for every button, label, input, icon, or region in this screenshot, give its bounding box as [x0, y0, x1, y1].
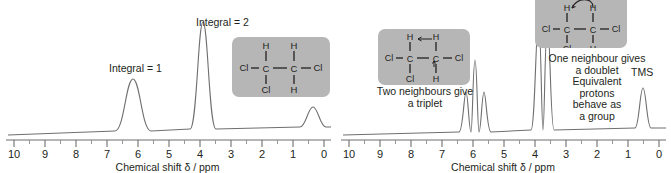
- doublet-note: One neighbour gives a doublet Equivalent…: [541, 53, 653, 122]
- atom-label-c-left: C: [564, 25, 571, 35]
- x-tick-label: 2: [259, 148, 265, 160]
- atom-label-h-top-right: H: [291, 40, 298, 51]
- atom-label-cl-right: Cl: [455, 53, 464, 63]
- x-tick-label: 4: [532, 148, 538, 160]
- 1-1-2-trichloroethane-structure: H H Cl C C Cl Cl H: [232, 37, 330, 97]
- atom-label-c-left: C: [263, 63, 270, 74]
- x-tick-label: 2: [594, 148, 600, 160]
- x-tick-label: 7: [439, 148, 445, 160]
- x-tick-label: 7: [104, 148, 110, 160]
- integral-2-label: Integral = 2: [196, 16, 249, 28]
- molecule-box-triplet: H H Cl C C Cl Cl H: [378, 29, 470, 85]
- atom-label-cl-left: Cl: [385, 53, 394, 63]
- x-tick-label: 4: [197, 148, 203, 160]
- x-tick-label: 1: [290, 148, 296, 160]
- x-tick-label: 6: [135, 148, 141, 160]
- atom-label-cl-right: Cl: [314, 62, 323, 73]
- atom-label-cl-right: Cl: [612, 24, 621, 34]
- nmr-panel-low-resolution: 10 9 8 7 6 5 4 3 2 1 0 Chemical shift δ …: [0, 0, 335, 173]
- x-tick-label: 5: [166, 148, 172, 160]
- atom-label-cl-left: Cl: [542, 24, 551, 34]
- doublet-note-line-1: One neighbour gives: [541, 53, 653, 65]
- x-tick-label: 10: [8, 148, 20, 160]
- x-tick-label: 3: [228, 148, 234, 160]
- molecule-box-doublet: H H Cl C C Cl Cl H: [535, 0, 627, 48]
- atom-label-cl-left: Cl: [240, 62, 249, 73]
- x-axis-title: Chemical shift δ / ppm: [0, 161, 335, 173]
- trichloroethane-structure-triplet: H H Cl C C Cl Cl H: [378, 29, 470, 85]
- doublet-note-line-6: a group: [541, 111, 653, 123]
- triplet-note-line-1: Two neighbours give: [355, 86, 495, 98]
- atom-label-h-top-right: H: [590, 3, 597, 13]
- x-tick-label: 9: [377, 148, 383, 160]
- x-tick-label: 0: [656, 148, 662, 160]
- molecule-box: H H Cl C C Cl Cl H: [232, 37, 330, 97]
- atom-label-c-right: C: [291, 63, 298, 74]
- triplet-note-line-2: a triplet: [355, 98, 495, 110]
- doublet-note-line-5: behave as: [541, 99, 653, 111]
- atom-label-c-left: C: [407, 54, 414, 64]
- nmr-figure: 10 9 8 7 6 5 4 3 2 1 0 Chemical shift δ …: [0, 0, 671, 173]
- x-tick-label: 10: [343, 148, 355, 160]
- atom-label-c-right: C: [590, 25, 597, 35]
- x-tick-label: 8: [408, 148, 414, 160]
- x-axis-title: Chemical shift δ / ppm: [335, 161, 671, 173]
- atom-label-h-top-left: H: [564, 3, 571, 13]
- atom-label-cl-bottom: Cl: [262, 84, 271, 95]
- triplet-note: Two neighbours give a triplet: [355, 86, 495, 109]
- x-tick-label: 8: [73, 148, 79, 160]
- nmr-panel-high-resolution: 10 9 8 7 6 5 4 3 2 1 0 Chemical shift δ …: [335, 0, 671, 173]
- atom-label-h-top-left: H: [263, 40, 270, 51]
- x-tick-label: 9: [42, 148, 48, 160]
- trichloroethane-structure-doublet: H H Cl C C Cl Cl H: [535, 0, 627, 48]
- x-tick-label: 0: [321, 148, 327, 160]
- atom-label-h-bottom: H: [590, 44, 597, 48]
- x-tick-label: 1: [625, 148, 631, 160]
- integral-1-label: Integral = 1: [109, 62, 162, 74]
- atom-label-c-right: C: [433, 54, 440, 64]
- x-tick-label: 3: [563, 148, 569, 160]
- atom-label-h-top-left: H: [407, 32, 414, 42]
- atom-label-h-bottom: H: [433, 74, 440, 84]
- tms-label: TMS: [631, 66, 653, 78]
- atom-label-h-bottom: H: [291, 84, 298, 95]
- atom-label-cl-bottom: Cl: [563, 44, 572, 48]
- x-tick-label: 6: [470, 148, 476, 160]
- x-tick-label: 5: [501, 148, 507, 160]
- atom-label-cl-bottom: Cl: [406, 74, 415, 84]
- atom-label-h-top-right: H: [433, 32, 440, 42]
